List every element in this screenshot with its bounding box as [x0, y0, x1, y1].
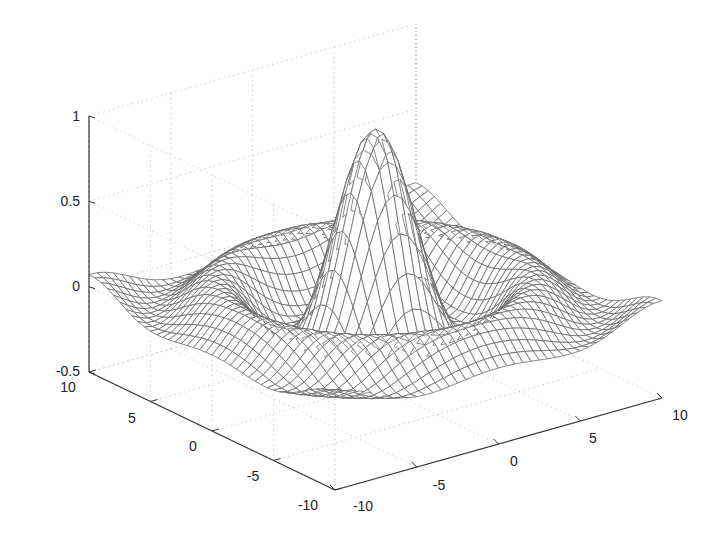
- z-tick-0: 0: [72, 278, 80, 294]
- x-tick-5: 5: [589, 430, 597, 446]
- y-tick-neg-5: -5: [247, 468, 260, 484]
- z-tick-1: 1: [72, 108, 80, 124]
- surface-plot: 1 0.5 0 -0.5 10 5 0 -5 -10 -10 -5 0 5 10: [0, 0, 724, 545]
- y-tick-5: 5: [128, 410, 136, 426]
- y-tick-10: 10: [60, 379, 76, 395]
- x-tick-0: 0: [510, 453, 518, 469]
- chart-canvas: 1 0.5 0 -0.5 10 5 0 -5 -10 -10 -5 0 5 10: [0, 0, 724, 545]
- x-tick-neg-10: -10: [353, 498, 373, 514]
- x-tick-neg-5: -5: [433, 477, 446, 493]
- x-tick-10: 10: [672, 407, 688, 423]
- z-tick-neg-0-5: -0.5: [56, 363, 80, 379]
- z-tick-0-5: 0.5: [61, 193, 81, 209]
- y-tick-neg-10: -10: [298, 497, 318, 513]
- mesh-surface: [89, 129, 662, 399]
- y-tick-0: 0: [189, 438, 197, 454]
